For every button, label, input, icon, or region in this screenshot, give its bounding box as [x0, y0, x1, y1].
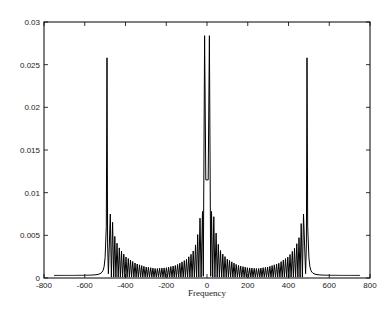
x-tick-label: 200	[241, 281, 255, 290]
x-tick-label: -400	[117, 281, 134, 290]
y-tick-label: 0.01	[24, 189, 40, 198]
x-tick-label: 800	[363, 281, 377, 290]
spectrum-chart: -800-600-400-200020040060080000.0050.010…	[0, 0, 392, 314]
y-tick-label: 0.02	[24, 103, 40, 112]
y-tick-label: 0.025	[20, 61, 41, 70]
x-tick-label: -600	[77, 281, 94, 290]
axis-ticks	[44, 22, 370, 278]
y-tick-label: 0	[36, 274, 41, 283]
x-tick-label: 600	[323, 281, 337, 290]
x-tick-label: -200	[158, 281, 175, 290]
spectrum-line	[54, 36, 360, 277]
y-tick-label: 0.005	[20, 231, 41, 240]
axis-tick-labels: -800-600-400-200020040060080000.0050.010…	[20, 18, 377, 290]
x-axis-label: Frequency	[188, 288, 226, 298]
x-tick-label: 400	[282, 281, 296, 290]
y-tick-label: 0.015	[20, 146, 41, 155]
y-tick-label: 0.03	[24, 18, 40, 27]
plot-frame	[44, 22, 370, 278]
